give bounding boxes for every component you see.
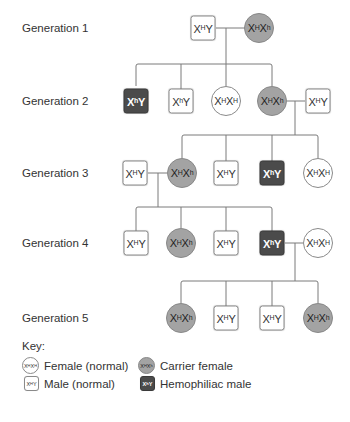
key-label: Carrier female bbox=[160, 360, 233, 372]
g3-male-hemophiliac: XhY bbox=[260, 161, 285, 186]
male-normal-symbol-icon: XHY bbox=[24, 376, 39, 391]
g4-spouse-female-normal: XHXH bbox=[303, 228, 333, 258]
g5-male-normal-2: XHY bbox=[260, 306, 285, 331]
g1-male-normal: XHY bbox=[191, 16, 216, 41]
g2-female-carrier: XHXh bbox=[257, 86, 287, 116]
key-item-hemophiliac-male: XhY Hemophiliac male bbox=[140, 376, 251, 391]
g2-spouse-male-normal: XHY bbox=[306, 89, 331, 114]
g5-female-carrier-1: XHXh bbox=[166, 303, 196, 333]
g3-female-normal: XHXH bbox=[303, 158, 333, 188]
g4-male-normal-1: XHY bbox=[124, 231, 149, 256]
key-label: Hemophiliac male bbox=[160, 378, 251, 390]
g2-male-normal: XhY bbox=[169, 89, 194, 114]
key-label: Female (normal) bbox=[44, 360, 128, 372]
g2-female-normal: XHXH bbox=[211, 86, 241, 116]
key-label: Male (normal) bbox=[44, 378, 115, 390]
key-item-female-normal: XHXH Female (normal) bbox=[22, 357, 128, 374]
g5-female-carrier-2: XHXh bbox=[303, 303, 333, 333]
g1-female-carrier: XHXh bbox=[244, 13, 274, 43]
carrier-female-symbol-icon: XHXh bbox=[138, 357, 155, 374]
g3-spouse-male-normal: XHY bbox=[123, 161, 148, 186]
g2-male-hemophiliac: XhY bbox=[124, 89, 149, 114]
g3-male-normal: XHY bbox=[214, 161, 239, 186]
g4-male-normal-2: XHY bbox=[214, 231, 239, 256]
key-title: Key: bbox=[22, 340, 45, 352]
g5-male-normal-1: XHY bbox=[214, 306, 239, 331]
female-normal-symbol-icon: XHXH bbox=[22, 357, 39, 374]
key-item-carrier-female: XHXh Carrier female bbox=[138, 357, 233, 374]
g4-female-carrier: XHXh bbox=[166, 228, 196, 258]
g4-male-hemophiliac: XhY bbox=[260, 231, 285, 256]
g3-female-carrier: XHXh bbox=[167, 158, 197, 188]
key-item-male-normal: XHY Male (normal) bbox=[24, 376, 115, 391]
hemophiliac-male-symbol-icon: XhY bbox=[140, 376, 155, 391]
